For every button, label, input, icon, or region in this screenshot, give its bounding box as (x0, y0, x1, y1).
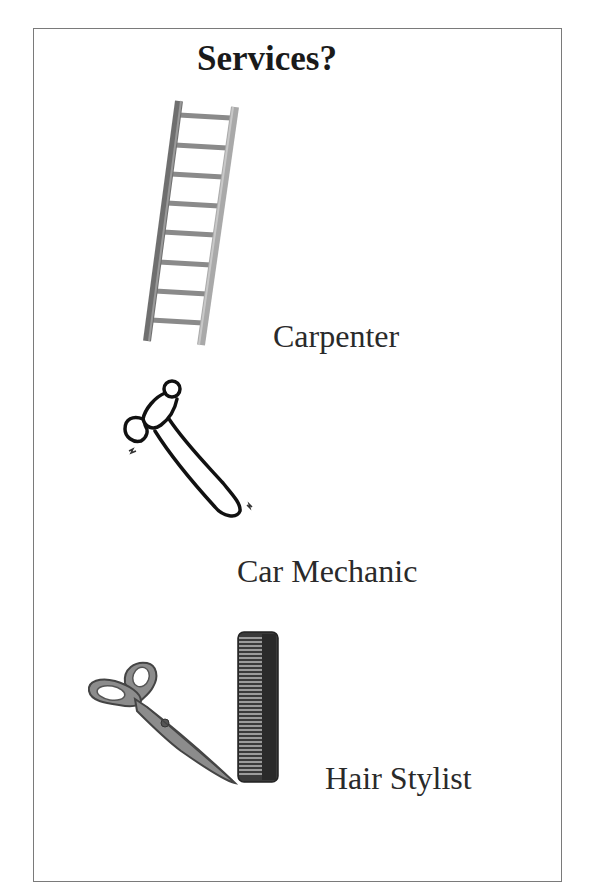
label-carpenter: Carpenter (273, 320, 399, 352)
label-hair-stylist: Hair Stylist (325, 762, 472, 794)
hammer-icon (115, 375, 265, 525)
page-title: Services? (197, 41, 337, 76)
scissors-icon (85, 655, 240, 790)
comb-icon (236, 630, 281, 785)
label-car-mechanic: Car Mechanic (237, 555, 417, 587)
ladder-icon (135, 95, 245, 355)
